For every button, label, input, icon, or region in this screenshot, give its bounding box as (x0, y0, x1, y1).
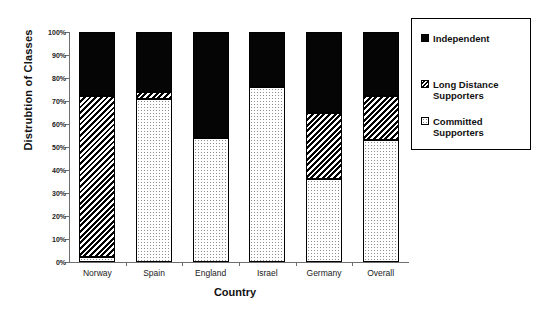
x-tick (352, 262, 353, 266)
x-tick (182, 262, 183, 266)
bar-segment-independent[interactable] (136, 32, 172, 92)
y-tick-label: 80% (32, 75, 66, 82)
y-tick-label: 40% (32, 167, 66, 174)
y-tick-label: 90% (32, 52, 66, 59)
x-tick (296, 262, 297, 266)
y-tick-label: 60% (32, 121, 66, 128)
legend-item-longdistance[interactable]: Long Distance Supporters (421, 79, 498, 101)
bar-segment-committed[interactable] (363, 140, 399, 262)
y-tick-label: 70% (32, 98, 66, 105)
bar-segment-committed[interactable] (249, 87, 285, 262)
legend-label: Long Distance Supporters (433, 79, 498, 101)
legend-item-independent[interactable]: Independent (421, 33, 489, 44)
bar-segment-longdistance[interactable] (363, 96, 399, 140)
x-tick (239, 262, 240, 266)
bar-israel[interactable] (249, 32, 285, 262)
legend-label: Committed Supporters (433, 116, 484, 138)
x-axis-title: Country (150, 286, 320, 298)
y-tick-label: 20% (32, 213, 66, 220)
legend-item-committed[interactable]: Committed Supporters (421, 116, 484, 138)
bar-segment-independent[interactable] (363, 32, 399, 96)
stacked-bar-chart: Distrubtion of Classes Country 0%10%20%3… (0, 0, 537, 311)
bar-segment-committed[interactable] (136, 99, 172, 262)
bar-england[interactable] (193, 32, 229, 262)
bar-segment-independent[interactable] (249, 32, 285, 87)
y-tick-label: 10% (32, 236, 66, 243)
y-tick-label: 100% (32, 29, 66, 36)
bar-segment-committed[interactable] (306, 179, 342, 262)
bar-norway[interactable] (79, 32, 115, 262)
y-axis-line (69, 32, 70, 262)
bar-segment-independent[interactable] (79, 32, 115, 96)
bar-segment-independent[interactable] (193, 32, 229, 138)
bar-spain[interactable] (136, 32, 172, 262)
x-tick (126, 262, 127, 266)
y-tick-label: 50% (32, 144, 66, 151)
plot-area: 0%10%20%30%40%50%60%70%80%90%100% Norway… (69, 32, 409, 262)
bar-segment-independent[interactable] (306, 32, 342, 113)
bar-segment-committed[interactable] (193, 138, 229, 262)
legend-label: Independent (433, 33, 489, 44)
bar-germany[interactable] (306, 32, 342, 262)
bar-segment-longdistance[interactable] (136, 92, 172, 99)
legend-swatch-committed-icon (421, 117, 429, 125)
bar-segment-longdistance[interactable] (79, 96, 115, 257)
legend-swatch-independent-icon (421, 34, 429, 42)
bar-overall[interactable] (363, 32, 399, 262)
chart-legend: IndependentLong Distance SupportersCommi… (411, 18, 531, 150)
bar-segment-committed[interactable] (79, 257, 115, 262)
bar-segment-longdistance[interactable] (306, 113, 342, 180)
y-tick-label: 0% (32, 259, 66, 266)
y-tick-label: 30% (32, 190, 66, 197)
category-label-overall: Overall (344, 268, 418, 278)
legend-swatch-longdistance-icon (421, 80, 429, 88)
